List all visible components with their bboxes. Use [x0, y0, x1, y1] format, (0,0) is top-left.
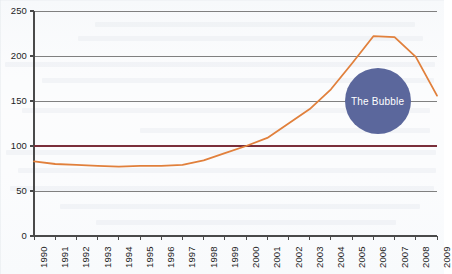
y-axis-tick-label: 150	[1, 95, 27, 106]
y-axis-tick-label: 100	[1, 140, 27, 151]
x-axis-tick-label: 1990	[38, 246, 49, 268]
bubble-annotation-label: The Bubble	[351, 96, 404, 107]
x-axis-tick-label: 1996	[165, 246, 176, 268]
x-axis-tick-label: 1993	[102, 246, 113, 268]
x-axis-tick-label: 1994	[123, 246, 134, 268]
x-axis-tick-label: 2007	[399, 246, 410, 268]
x-axis-tick-label: 2001	[271, 246, 282, 268]
x-axis-tick-label: 1991	[59, 246, 70, 268]
x-axis-tick-label: 1997	[186, 246, 197, 268]
x-axis-tick-label: 2002	[293, 246, 304, 268]
x-axis-tick-label: 1992	[80, 246, 91, 268]
x-axis-tick-label: 2005	[356, 246, 367, 268]
x-axis-tick-label: 1995	[144, 246, 155, 268]
y-axis-tick-label: 50	[1, 185, 27, 196]
x-axis-tick-label: 1998	[208, 246, 219, 268]
x-axis-tick-label: 2006	[377, 246, 388, 268]
bubble-annotation: The Bubble	[345, 68, 411, 134]
y-axis-tick-label: 0	[1, 230, 27, 241]
x-axis-tick-label: 2000	[250, 246, 261, 268]
x-axis-tick-label: 2009	[441, 246, 452, 268]
y-axis-tick-label: 200	[1, 50, 27, 61]
x-axis-tick-label: 2003	[314, 246, 325, 268]
x-axis-tick-label: 1999	[229, 246, 240, 268]
x-axis-tick-label: 2008	[420, 246, 431, 268]
y-axis-tick-label: 250	[1, 5, 27, 16]
x-axis-tick-label: 2004	[335, 246, 346, 268]
